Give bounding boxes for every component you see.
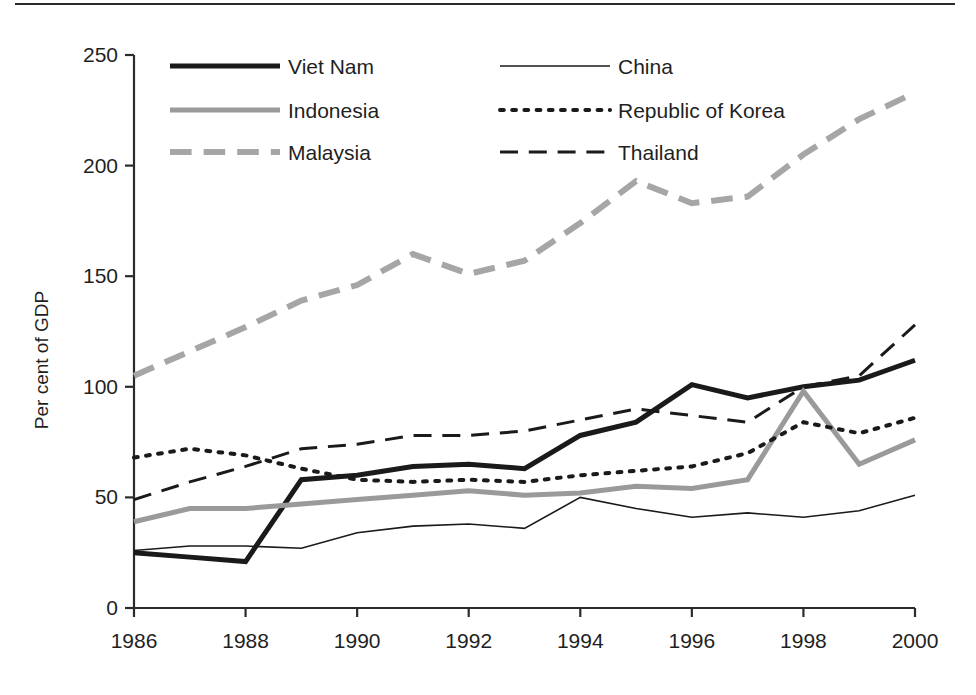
- line-chart: 050100150200250 198619881990199219941996…: [0, 0, 976, 695]
- series-line-malaysia: [134, 93, 915, 376]
- series-line-thailand: [134, 325, 915, 500]
- x-tick-label: 1994: [557, 629, 604, 652]
- legend-label: Malaysia: [288, 141, 371, 164]
- chart-axes: [125, 55, 915, 617]
- legend-entry-viet-nam: Viet Nam: [170, 55, 374, 78]
- series-line-indonesia: [134, 391, 915, 522]
- legend-label: Viet Nam: [288, 55, 374, 78]
- legend-entry-china: China: [500, 55, 673, 78]
- legend-label: Indonesia: [288, 99, 379, 122]
- x-tick-label: 2000: [892, 629, 939, 652]
- legend-entry-malaysia: Malaysia: [170, 141, 371, 164]
- legend-entry-republic-of-korea: Republic of Korea: [500, 99, 785, 122]
- y-tick-label: 150: [83, 264, 118, 287]
- series-line-china: [134, 495, 915, 550]
- y-tick-label: 0: [106, 596, 118, 619]
- series-line-viet-nam: [134, 360, 915, 561]
- x-tick-label: 1996: [668, 629, 715, 652]
- y-tick-label: 200: [83, 154, 118, 177]
- series-line-republic-of-korea: [134, 418, 915, 482]
- y-tick-labels: 050100150200250: [83, 43, 118, 619]
- y-tick-label: 100: [83, 375, 118, 398]
- legend-label: Republic of Korea: [618, 99, 785, 122]
- figure-root: 050100150200250 198619881990199219941996…: [0, 0, 976, 695]
- y-tick-label: 50: [95, 485, 118, 508]
- x-tick-label: 1990: [334, 629, 381, 652]
- x-tick-marks: [134, 608, 915, 617]
- y-tick-marks: [125, 55, 134, 608]
- y-tick-label: 250: [83, 43, 118, 66]
- x-tick-label: 1992: [445, 629, 492, 652]
- x-tick-label: 1986: [111, 629, 158, 652]
- chart-legend: Viet NamIndonesiaMalaysiaChinaRepublic o…: [170, 55, 785, 164]
- legend-entry-thailand: Thailand: [500, 141, 699, 164]
- x-tick-label: 1988: [222, 629, 269, 652]
- legend-label: China: [618, 55, 673, 78]
- legend-entry-indonesia: Indonesia: [170, 99, 379, 122]
- x-tick-label: 1998: [780, 629, 827, 652]
- data-series-layer: [134, 93, 915, 562]
- x-tick-labels: 19861988199019921994199619982000: [111, 629, 939, 652]
- y-axis-title: Per cent of GDP: [31, 291, 52, 429]
- legend-label: Thailand: [618, 141, 699, 164]
